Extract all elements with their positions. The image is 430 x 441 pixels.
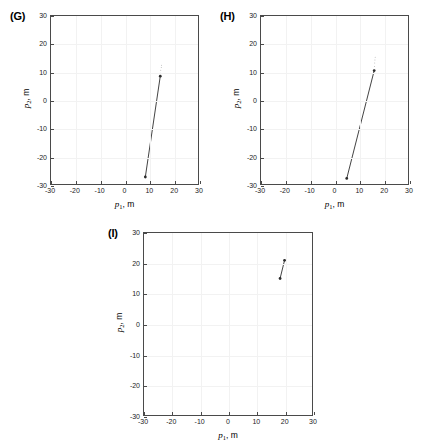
tick-mark-x: [360, 181, 361, 184]
tick-mark-y: [261, 101, 264, 102]
subplot-h: (H) -30-20-1001020303020100-10-20-30p1, …: [215, 0, 430, 216]
tick-label-x: 20: [380, 187, 388, 194]
tick-label-y: -30: [238, 182, 257, 189]
tick-mark-x: [175, 181, 176, 184]
trajectory-endpoint-marker: [144, 176, 147, 179]
gridline-vertical: [286, 16, 287, 184]
subplot-g: (G) -30-20-1001020303020100-10-20-30p1, …: [0, 0, 215, 216]
plot-area-h: [260, 15, 409, 185]
tick-mark-x: [286, 181, 287, 184]
gridline-horizontal: [51, 73, 198, 74]
tick-label-y: -20: [28, 153, 47, 160]
tick-mark-x: [314, 412, 315, 415]
panel-label-g: (G): [10, 10, 25, 22]
data-layer-i: [144, 233, 312, 415]
tick-label-x: 20: [281, 418, 289, 425]
tick-label-x: 10: [355, 187, 363, 194]
tick-mark-x: [150, 181, 151, 184]
tick-mark-x: [311, 181, 312, 184]
tick-label-y: 10: [28, 68, 47, 75]
gridline-horizontal: [51, 101, 198, 102]
data-point-faint: [375, 57, 376, 58]
tick-label-x: 0: [333, 187, 337, 194]
trajectory-endpoint-marker: [345, 177, 348, 180]
tick-label-y: -10: [238, 125, 257, 132]
data-point-faint: [161, 67, 162, 68]
tick-mark-y: [261, 73, 264, 74]
tick-mark-x: [51, 181, 52, 184]
axis-label-y: p2, m: [21, 79, 32, 119]
tick-label-x: 10: [145, 187, 153, 194]
tick-label-x: 20: [170, 187, 178, 194]
tick-mark-y: [144, 294, 147, 295]
tick-label-x: 30: [405, 187, 413, 194]
tick-label-y: 30: [121, 229, 140, 236]
tick-mark-y: [51, 73, 54, 74]
axis-label-x: p1, m: [115, 199, 135, 210]
tick-mark-x: [257, 412, 258, 415]
gridline-vertical: [201, 233, 202, 415]
gridline-horizontal: [261, 158, 408, 159]
gridline-horizontal: [144, 325, 312, 326]
gridline-vertical: [257, 233, 258, 415]
tick-mark-x: [385, 181, 386, 184]
tick-label-y: 10: [121, 290, 140, 297]
tick-label-y: 20: [28, 40, 47, 47]
tick-label-y: 20: [238, 40, 257, 47]
tick-label-x: 30: [195, 187, 203, 194]
tick-label-x: 30: [309, 418, 317, 425]
tick-mark-x: [101, 181, 102, 184]
trajectory-endpoint-marker: [159, 75, 162, 78]
tick-mark-x: [200, 181, 201, 184]
tick-mark-x: [172, 412, 173, 415]
trajectory-endpoint-marker: [279, 277, 282, 280]
tick-mark-y: [51, 129, 54, 130]
gridline-horizontal: [144, 294, 312, 295]
plot-area-g: [50, 15, 199, 185]
gridline-vertical: [175, 16, 176, 184]
data-point-faint: [374, 59, 375, 60]
panel-label-i: (I): [108, 227, 118, 239]
axis-label-y: p2, m: [114, 303, 125, 343]
tick-label-y: -20: [238, 153, 257, 160]
tick-mark-y: [144, 233, 147, 234]
gridline-horizontal: [261, 44, 408, 45]
axis-label-y: p2, m: [231, 79, 242, 119]
tick-label-x: 10: [252, 418, 260, 425]
trajectory-endpoint-marker: [373, 69, 376, 72]
tick-mark-x: [229, 412, 230, 415]
tick-mark-y: [144, 386, 147, 387]
tick-mark-y: [261, 44, 264, 45]
tick-mark-y: [144, 325, 147, 326]
tick-label-y: -30: [28, 182, 47, 189]
tick-label-x: -10: [305, 187, 315, 194]
gridline-vertical: [311, 16, 312, 184]
tick-label-x: -20: [280, 187, 290, 194]
tick-mark-x: [126, 181, 127, 184]
trajectory-line: [145, 76, 160, 177]
tick-mark-y: [51, 16, 54, 17]
tick-mark-y: [51, 101, 54, 102]
gridline-vertical: [101, 16, 102, 184]
gridline-vertical: [229, 233, 230, 415]
gridline-horizontal: [51, 44, 198, 45]
tick-label-y: 30: [28, 12, 47, 19]
tick-label-x: -20: [166, 418, 176, 425]
plot-area-i: [143, 232, 313, 416]
gridline-horizontal: [144, 264, 312, 265]
tick-label-y: -10: [121, 351, 140, 358]
tick-mark-x: [336, 181, 337, 184]
tick-label-y: -30: [121, 413, 140, 420]
gridline-vertical: [76, 16, 77, 184]
gridline-vertical: [126, 16, 127, 184]
gridline-horizontal: [51, 158, 198, 159]
tick-mark-x: [410, 181, 411, 184]
tick-label-x: 0: [123, 187, 127, 194]
tick-label-x: 0: [226, 418, 230, 425]
axis-label-x: p1, m: [325, 199, 345, 210]
tick-mark-y: [261, 129, 264, 130]
gridline-horizontal: [144, 386, 312, 387]
gridline-horizontal: [261, 129, 408, 130]
panel-label-h: (H): [220, 10, 235, 22]
